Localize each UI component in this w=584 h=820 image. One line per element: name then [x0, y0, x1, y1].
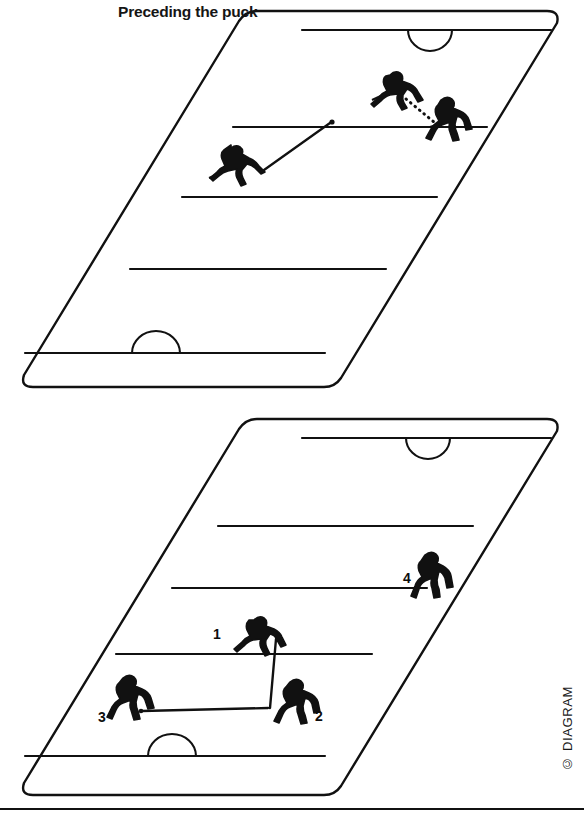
player-number-4: 4: [403, 570, 411, 586]
diagram-page: Preceding the puck: [0, 0, 584, 820]
player-number-1: 1: [213, 626, 221, 642]
near-crease-arc: [132, 331, 180, 353]
player-figure-carrier: [209, 145, 265, 186]
rink-diagram-advancing: [0, 406, 584, 806]
rink-diagram-preceding: [0, 0, 584, 410]
player-number-3: 3: [98, 709, 106, 725]
rink-markings: [25, 30, 551, 353]
skate-path-dotted: [406, 99, 434, 122]
player-figure-2: [274, 679, 320, 724]
near-crease-arc: [148, 734, 196, 756]
player-figure-defender: [426, 97, 472, 141]
far-crease-arc: [406, 438, 450, 459]
player-number-2: 2: [315, 708, 323, 724]
panel-advancing-the-puck: Advancing the puck: [0, 406, 584, 806]
player-figure-1: [234, 617, 286, 656]
far-crease-arc: [408, 30, 452, 51]
player-figure-3: [107, 675, 154, 720]
player-figure-forechecker: [371, 72, 423, 110]
footer-divider: [0, 808, 584, 810]
goal-creases: [132, 30, 452, 353]
pass-origin-marker-3: [139, 709, 144, 714]
panel-title-preceding: Preceding the puck: [118, 3, 257, 21]
pass-line-3-to-2: [142, 708, 268, 711]
puck-path-line: [264, 123, 330, 170]
player-figure-4: [411, 552, 453, 598]
panel-preceding-the-puck: Preceding the puck: [0, 0, 584, 410]
copyright-credit: © DIAGRAM: [560, 686, 582, 771]
rink-outline: [23, 11, 558, 387]
puck-marker: [329, 119, 334, 124]
pass-line-2-to-1: [270, 639, 276, 708]
rink-outline: [23, 419, 558, 795]
